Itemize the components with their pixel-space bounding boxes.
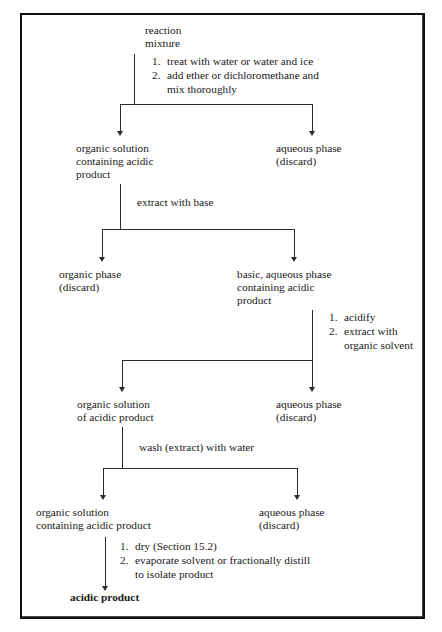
operation-step-3: 1.acidify 2.extract with organic solvent (329, 310, 413, 353)
connector-left-drop-4 (103, 468, 104, 496)
node-aqueous-discard-2-line1: aqueous phase (276, 398, 342, 412)
step1-text2b: mix thoroughly (152, 82, 319, 96)
connector-stem-2 (120, 184, 121, 230)
step5-num1: 1. (120, 539, 135, 553)
step1-text1: treat with water or water and ice (167, 54, 313, 68)
node-basic-aqueous-line1: basic, aqueous phase (237, 268, 331, 282)
flowchart-figure: reaction mixture 1.treat with water or w… (0, 0, 442, 632)
step1-text2: add ether or dichloromethane and (167, 68, 319, 82)
node-aqueous-discard-1-line2: (discard) (276, 155, 316, 169)
connector-left-drop-3 (122, 360, 123, 388)
node-aqueous-discard-3-line2: (discard) (259, 519, 299, 533)
node-organic-acidic-2-line2: containing acidic product (36, 519, 151, 533)
node-aqueous-discard-3-line1: aqueous phase (259, 506, 325, 520)
node-organic-discard-line2: (discard) (59, 281, 99, 295)
step5-text2: evaporate solvent or fractionally distil… (135, 553, 310, 567)
node-aqueous-discard-1-line1: aqueous phase (276, 142, 342, 156)
operation-step-4: wash (extract) with water (139, 441, 254, 455)
connector-left-drop-2 (102, 229, 103, 258)
step5-text1: dry (Section 15.2) (135, 539, 217, 553)
step3-text2: extract with (344, 324, 398, 338)
connector-right-drop-3 (312, 360, 313, 388)
node-reaction-mixture-line2: mixture (145, 37, 180, 51)
connector-split-bar-3 (122, 360, 313, 361)
node-acidic-product: acidic product (70, 591, 139, 605)
step5-text2b: to isolate product (120, 567, 310, 581)
node-organic-acidic-1-line2: containing acidic (76, 155, 153, 169)
connector-stem-1 (134, 54, 135, 104)
step3-text2b: organic solvent (329, 338, 413, 352)
step1-num2: 2. (152, 68, 167, 82)
node-basic-aqueous-line3: product (237, 294, 272, 308)
node-organic-acidic-2-line1: organic solution (36, 506, 109, 520)
step5-num2: 2. (120, 553, 135, 567)
arrowhead-right-2 (291, 257, 297, 262)
step3-text1: acidify (344, 310, 375, 324)
connector-stem-3 (312, 310, 313, 361)
connector-stem-4 (122, 427, 123, 469)
connector-stem-5 (105, 537, 106, 588)
node-basic-aqueous-line2: containing acidic (237, 281, 314, 295)
arrowhead-right-4 (294, 495, 300, 500)
node-organic-of-acidic-line1: organic solution (77, 398, 150, 412)
operation-step-1: 1.treat with water or water and ice 2.ad… (152, 54, 319, 97)
step1-num1: 1. (152, 54, 167, 68)
operation-step-5: 1.dry (Section 15.2) 2.evaporate solvent… (120, 539, 310, 582)
node-organic-acidic-1-line1: organic solution (76, 142, 149, 156)
arrowhead-right-3 (309, 387, 315, 392)
connector-right-drop-1 (312, 104, 313, 132)
node-reaction-mixture-line1: reaction (145, 24, 181, 38)
node-organic-discard-line1: organic phase (59, 268, 121, 282)
connector-split-bar-1 (120, 104, 313, 105)
page-bleed-text (8, 0, 434, 3)
arrowhead-left-2 (99, 257, 105, 262)
node-organic-of-acidic-line2: of acidic product (77, 411, 154, 425)
node-organic-acidic-1-line3: product (76, 168, 111, 182)
connector-right-drop-4 (297, 468, 298, 496)
arrowhead-left-4 (100, 495, 106, 500)
step3-num1: 1. (329, 310, 344, 324)
operation-step-2: extract with base (137, 196, 214, 210)
arrowhead-right-1 (309, 131, 315, 136)
connector-right-drop-2 (294, 229, 295, 258)
arrowhead-left-3 (119, 387, 125, 392)
connector-split-bar-4 (103, 468, 297, 469)
connector-left-drop-1 (120, 104, 121, 132)
node-aqueous-discard-2-line2: (discard) (276, 411, 316, 425)
step3-num2: 2. (329, 324, 344, 338)
connector-split-bar-2 (102, 229, 295, 230)
arrowhead-left-1 (117, 131, 123, 136)
